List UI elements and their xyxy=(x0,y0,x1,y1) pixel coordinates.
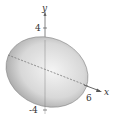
y-tick-label-bottom: -4 xyxy=(29,106,38,115)
x-tick-label: 6 xyxy=(86,94,92,103)
ellipsoid-figure: y 4 -4 6 x xyxy=(0,0,132,120)
x-axis-label: x xyxy=(104,88,109,97)
y-axis-label: y xyxy=(42,4,47,13)
y-tick-label-top: 4 xyxy=(35,24,41,33)
x-axis-arrow xyxy=(96,89,102,93)
ellipsoid-surface xyxy=(0,25,99,120)
ellipsoid-plot xyxy=(0,0,132,120)
